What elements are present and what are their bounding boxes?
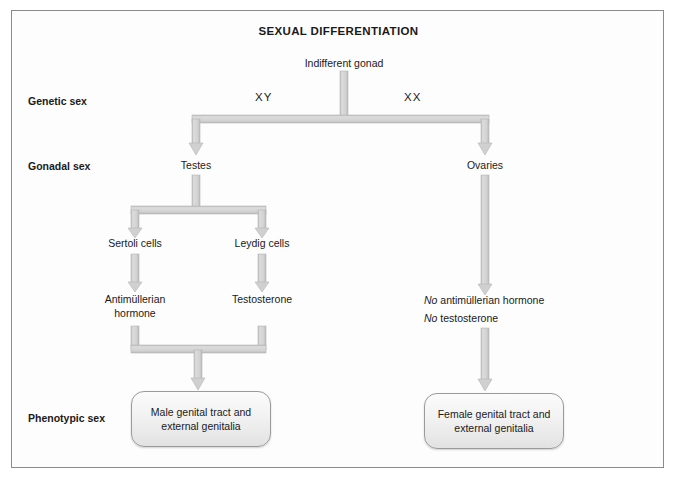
figure-canvas: SEXUAL DIFFERENTIATION [0,0,677,479]
node-testes: Testes [146,158,246,172]
stage-label-phenotypic-sex: Phenotypic sex [28,412,105,424]
node-indifferent-gonad: Indifferent gonad [244,56,444,70]
node-leydig-cells: Leydig cells [212,236,312,250]
outcome-box-male: Male genital tract and external genitali… [131,391,271,447]
no-amh-italic: No [424,294,437,306]
outcome-box-female: Female genital tract and external genita… [424,393,564,449]
no-amh-rest: antimüllerian hormone [437,294,544,306]
amh-line-2: hormone [114,307,155,319]
node-ovaries: Ovaries [435,158,535,172]
node-no-testosterone: No testosterone [424,311,654,325]
stage-label-gonadal-sex: Gonadal sex [28,160,90,172]
node-sertoli-cells: Sertoli cells [85,236,185,250]
node-no-antimullerian-hormone: No antimüllerian hormone [424,293,654,307]
node-testosterone: Testosterone [212,292,312,306]
label-karyotype-xx: XX [404,91,421,103]
amh-line-1: Antimüllerian [105,293,166,305]
stage-label-genetic-sex: Genetic sex [28,95,87,107]
no-testosterone-italic: No [424,312,437,324]
no-testosterone-rest: testosterone [437,312,498,324]
node-antimullerian-hormone: Antimüllerian hormone [85,292,185,320]
label-karyotype-xy: XY [255,91,272,103]
figure-title: SEXUAL DIFFERENTIATION [0,25,677,37]
